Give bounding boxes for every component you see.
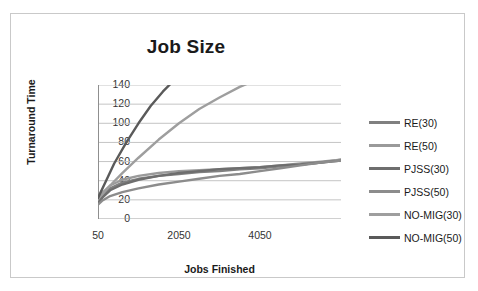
legend-label: PJSS(30) xyxy=(404,163,449,175)
legend-label: NO-MIG(50) xyxy=(404,232,462,244)
y-axis-title: Turnaround Time xyxy=(25,62,37,182)
legend-swatch xyxy=(369,144,400,147)
series-line xyxy=(98,161,341,205)
legend-swatch xyxy=(369,190,400,193)
x-tick-label: 50 xyxy=(68,229,128,241)
chart-legend: RE(30)RE(50)PJSS(30)PJSS(50)NO-MIG(30)NO… xyxy=(369,111,478,249)
x-tick-label: 2050 xyxy=(149,229,209,241)
legend-swatch xyxy=(369,236,400,239)
legend-item[interactable]: PJSS(50) xyxy=(369,180,478,203)
legend-item[interactable]: RE(50) xyxy=(369,134,478,157)
chart-frame: Job Size Turnaround Time Jobs Finished 1… xyxy=(10,13,465,278)
x-axis-title: Jobs Finished xyxy=(98,263,341,275)
legend-label: NO-MIG(30) xyxy=(404,209,462,221)
legend-item[interactable]: RE(30) xyxy=(369,111,478,134)
legend-item[interactable]: NO-MIG(50) xyxy=(369,226,478,249)
legend-swatch xyxy=(369,167,400,170)
legend-item[interactable]: PJSS(30) xyxy=(369,157,478,180)
x-tick-label: 4050 xyxy=(230,229,290,241)
chart-title: Job Size xyxy=(11,36,361,58)
legend-item[interactable]: NO-MIG(30) xyxy=(369,203,478,226)
plot-area xyxy=(98,85,341,219)
series-canvas xyxy=(98,85,341,219)
legend-label: RE(30) xyxy=(404,117,437,129)
legend-label: PJSS(50) xyxy=(404,186,449,198)
legend-swatch xyxy=(369,121,400,124)
legend-label: RE(50) xyxy=(404,140,437,152)
legend-swatch xyxy=(369,213,400,216)
series-line xyxy=(98,161,341,204)
